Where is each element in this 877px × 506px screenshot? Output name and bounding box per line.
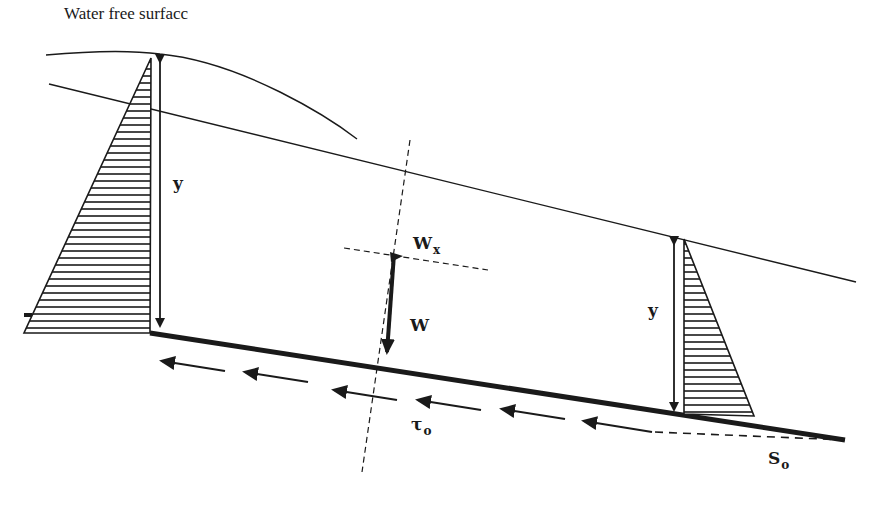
open-channel-force-diagram: Water free surfacc y y W Wx τo So [0,0,877,506]
right-depth-label: y [648,300,658,320]
weight-arrow [387,254,394,352]
weight-component-symbol: W [413,233,432,253]
shear-symbol: τ [411,414,422,434]
shear-subscript: o [423,424,431,438]
weight-component-arrowhead [390,252,403,262]
slope-label: So [768,448,789,468]
water-free-surface-label: Water free surfacc [64,4,188,24]
weight-label: W [410,315,429,335]
water-surface-line [49,84,856,282]
slope-subscript: o [781,458,789,472]
weight-component-label: Wx [413,233,440,253]
shear-stress-label: τo [411,414,431,434]
slope-symbol: S [768,448,780,468]
right-pressure-triangle [684,239,754,416]
left-pressure-triangle [24,58,151,333]
left-depth-label: y [173,173,183,193]
weight-component-subscript: x [433,243,440,257]
normal-dashed-line [362,140,410,472]
